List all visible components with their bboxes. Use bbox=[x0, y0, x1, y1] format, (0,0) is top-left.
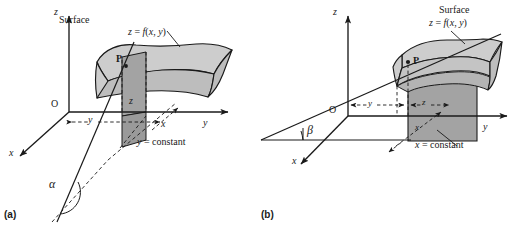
surface-title: Surface bbox=[59, 15, 90, 25]
dimension-y-label: y bbox=[88, 115, 92, 125]
origin-label: O bbox=[329, 105, 336, 115]
panel-b-tag: (b) bbox=[261, 210, 274, 220]
surface-equation: z = f(x, y) bbox=[128, 27, 166, 37]
point-p-marker bbox=[124, 64, 128, 68]
surface-sheet bbox=[96, 44, 233, 98]
z-axis-label: z bbox=[333, 7, 337, 17]
surface-leader bbox=[167, 31, 180, 47]
x-axis-label: x bbox=[292, 156, 296, 166]
surface-sheet bbox=[393, 39, 502, 92]
panel-a: z y x O P z y x Surface z = f(x, y) y = … bbox=[0, 0, 260, 230]
height-z-label: z bbox=[422, 98, 426, 107]
dimension-x-label: x bbox=[415, 123, 419, 132]
height-z-label: z bbox=[129, 96, 133, 106]
section-label-y-constant: y = constant bbox=[137, 137, 185, 147]
y-axis-label: y bbox=[203, 118, 207, 128]
partial-derivatives-figure: z y x O P z y x Surface z = f(x, y) y = … bbox=[0, 0, 521, 230]
angle-alpha-label: α bbox=[49, 178, 55, 190]
panel-b-graphic bbox=[261, 0, 521, 230]
dimension-y-label: y bbox=[368, 99, 372, 108]
panel-a-tag: (a) bbox=[4, 210, 16, 220]
angle-beta-label: β bbox=[307, 124, 313, 136]
surface-title: Surface bbox=[439, 5, 470, 15]
y-axis-label: y bbox=[483, 122, 487, 132]
x-axis-label: x bbox=[9, 148, 13, 158]
surface-equation: z = f(x, y) bbox=[429, 18, 467, 28]
dimension-x-label: x bbox=[161, 119, 165, 129]
origin-label: O bbox=[51, 99, 58, 109]
section-label-x-constant: x = constant bbox=[415, 140, 463, 150]
x-axis bbox=[20, 112, 69, 156]
point-p-marker bbox=[406, 60, 410, 64]
z-axis-label: z bbox=[54, 7, 58, 17]
panel-b: z y x O P y z x Surface z = f(x, y) x = … bbox=[261, 0, 521, 230]
point-p-label: P bbox=[413, 56, 419, 66]
point-p-label: P bbox=[116, 54, 122, 64]
